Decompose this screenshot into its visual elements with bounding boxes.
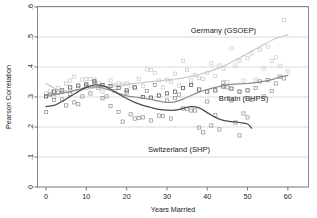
scatter-points-layer bbox=[44, 19, 289, 137]
scatter-point bbox=[141, 116, 144, 119]
x-tick-label: 50 bbox=[244, 192, 252, 201]
scatter-point bbox=[53, 90, 56, 93]
scatter-point bbox=[190, 109, 193, 112]
y-tick-label: .5 bbox=[26, 34, 35, 40]
y-tick-label: .2 bbox=[26, 124, 35, 130]
scatter-point bbox=[65, 82, 68, 85]
scatter-point bbox=[109, 79, 112, 82]
scatter-point bbox=[69, 86, 72, 89]
scatter-point bbox=[81, 78, 84, 81]
scatter-point bbox=[266, 45, 269, 48]
scatter-point bbox=[89, 92, 92, 95]
scatter-point bbox=[157, 114, 160, 117]
y-tick-label: .1 bbox=[26, 154, 35, 160]
scatter-point bbox=[69, 79, 72, 82]
scatter-point bbox=[145, 89, 148, 92]
scatter-point bbox=[117, 110, 120, 113]
scatter-point bbox=[77, 103, 80, 106]
scatter-point bbox=[226, 86, 229, 89]
scatter-point bbox=[149, 119, 152, 122]
scatter-point bbox=[169, 80, 172, 83]
scatter-point bbox=[173, 72, 176, 75]
scatter-point bbox=[282, 77, 285, 80]
scatter-point bbox=[44, 110, 47, 113]
scatter-point bbox=[246, 116, 249, 119]
y-tick-labels: 0.1.2.3.4.5.6 bbox=[26, 4, 35, 189]
scatter-point bbox=[125, 91, 128, 94]
scatter-point bbox=[181, 59, 184, 62]
scatter-point bbox=[153, 83, 156, 86]
scatter-point bbox=[101, 90, 104, 93]
scatter-point bbox=[117, 86, 120, 89]
series-label: Britain (BHPS) bbox=[219, 94, 269, 103]
scatter-point bbox=[254, 78, 257, 81]
x-tick-label: 0 bbox=[44, 192, 48, 201]
scatter-point bbox=[145, 68, 148, 71]
scatter-point bbox=[210, 62, 213, 65]
scatter-point bbox=[274, 56, 277, 59]
series-curve bbox=[46, 85, 252, 128]
scatter-point bbox=[73, 101, 76, 104]
scatter-point bbox=[73, 75, 76, 78]
scatter-point bbox=[202, 77, 205, 80]
scatter-point bbox=[194, 109, 197, 112]
scatter-point bbox=[85, 77, 88, 80]
scatter-point bbox=[161, 115, 164, 118]
y-tick-label: 0 bbox=[26, 185, 35, 189]
y-tick-label: .4 bbox=[26, 64, 35, 70]
scatter-point bbox=[238, 134, 241, 137]
scatter-point bbox=[169, 117, 172, 120]
scatter-point bbox=[258, 48, 261, 51]
scatter-point bbox=[214, 89, 217, 92]
scatter-point bbox=[198, 126, 201, 129]
scatter-point bbox=[282, 19, 285, 22]
scatter-point bbox=[153, 71, 156, 74]
scatter-point bbox=[254, 86, 257, 89]
series-label: Germany (GSOEP) bbox=[191, 26, 257, 35]
scatter-point bbox=[137, 116, 140, 119]
scatter-point bbox=[125, 89, 128, 92]
scatter-point bbox=[165, 92, 168, 95]
scatter-point bbox=[137, 77, 140, 80]
x-tick-labels: 0102030405060 bbox=[44, 192, 292, 201]
scatter-point bbox=[230, 87, 233, 90]
scatter-point bbox=[149, 68, 152, 71]
scatter-point bbox=[218, 128, 221, 131]
scatter-point bbox=[206, 100, 209, 103]
scatter-point bbox=[242, 79, 245, 82]
scatter-point bbox=[270, 89, 273, 92]
scatter-point bbox=[181, 86, 184, 89]
scatter-point bbox=[141, 85, 144, 88]
x-tick-label: 40 bbox=[203, 192, 211, 201]
scatter-point bbox=[121, 120, 124, 123]
scatter-point bbox=[242, 112, 245, 115]
x-tick-label: 10 bbox=[82, 192, 90, 201]
scatter-point bbox=[230, 47, 233, 50]
scatter-point bbox=[186, 68, 189, 71]
chart-figure: 0.1.2.3.4.5.6 0102030405060 Germany (GSO… bbox=[0, 0, 317, 218]
y-axis-title: Pearson Correlation bbox=[4, 65, 13, 129]
scatter-point bbox=[198, 88, 201, 91]
x-axis-title: Years Married bbox=[151, 205, 195, 214]
x-tick-label: 20 bbox=[123, 192, 131, 201]
series-label: Switzerland (SHP) bbox=[148, 145, 211, 154]
x-tick-label: 30 bbox=[163, 192, 171, 201]
scatter-point bbox=[226, 80, 229, 83]
scatter-point bbox=[161, 86, 164, 89]
y-tick-label: .6 bbox=[26, 4, 35, 10]
scatter-point bbox=[246, 89, 249, 92]
scatter-point bbox=[129, 113, 132, 116]
scatter-point bbox=[109, 104, 112, 107]
scatter-point bbox=[246, 56, 249, 59]
scatter-point bbox=[274, 82, 277, 85]
scatter-point bbox=[238, 59, 241, 62]
scatter-point bbox=[222, 81, 225, 84]
x-tick-label: 60 bbox=[284, 192, 292, 201]
scatter-point bbox=[190, 83, 193, 86]
scatter-point bbox=[81, 95, 84, 98]
scatter-point bbox=[177, 93, 180, 96]
scatter-point bbox=[105, 95, 108, 98]
scatter-point bbox=[177, 84, 180, 87]
scatter-point bbox=[133, 117, 136, 120]
scatter-point bbox=[65, 104, 68, 107]
